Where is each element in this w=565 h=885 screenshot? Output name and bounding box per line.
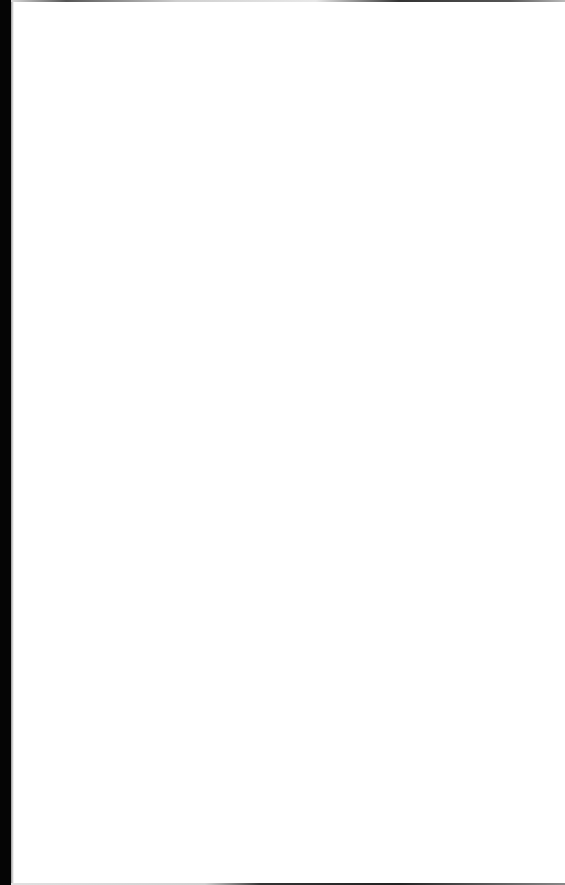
left-dark-edge <box>0 0 11 885</box>
scanned-page-frame <box>0 0 565 885</box>
blank-page <box>14 2 565 883</box>
